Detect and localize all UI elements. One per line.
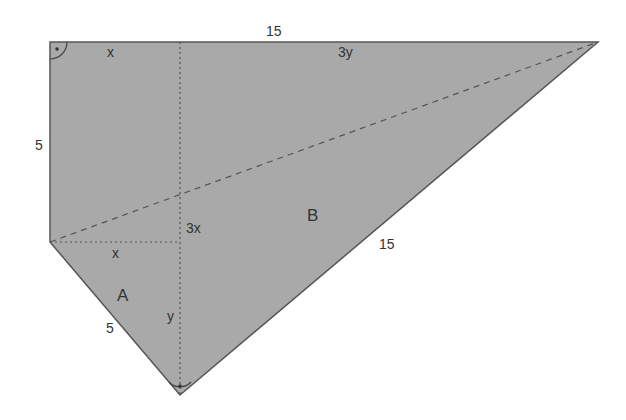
label-left-side: 5 bbox=[35, 137, 43, 153]
label-segment-y: y bbox=[167, 308, 174, 324]
label-top-side: 15 bbox=[266, 23, 282, 39]
label-top-3y: 3y bbox=[338, 44, 353, 60]
label-lower-left-side: 5 bbox=[106, 320, 114, 336]
label-hypotenuse: 15 bbox=[379, 236, 395, 252]
label-region-b: B bbox=[307, 206, 318, 225]
label-top-x: x bbox=[107, 44, 114, 60]
label-inner-x: x bbox=[112, 245, 119, 261]
geometry-diagram: 15 x 3y 5 3x x A B 15 5 y bbox=[0, 0, 626, 420]
shape-fill bbox=[50, 42, 598, 395]
label-region-a: A bbox=[117, 286, 129, 305]
label-inner-3x: 3x bbox=[186, 220, 201, 236]
